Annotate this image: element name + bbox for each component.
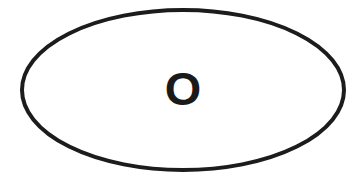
ellipse-diagram [0, 0, 362, 179]
diagram-canvas: O [0, 0, 362, 179]
paper-background [0, 0, 362, 179]
